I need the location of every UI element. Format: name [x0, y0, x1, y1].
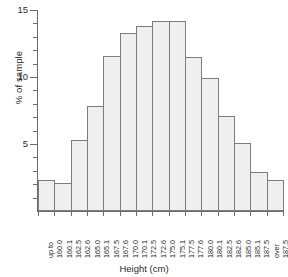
x-tick-label: 160.0 [55, 240, 64, 258]
x-tick-label: 187.5 [281, 240, 288, 258]
x-tick-mark [267, 212, 268, 216]
x-tick-label: 187.5 [262, 240, 271, 258]
x-axis-line [37, 211, 284, 212]
histogram-bar [120, 33, 137, 211]
y-tick-major [30, 144, 38, 145]
x-tick-mark [38, 212, 39, 216]
histogram-bar [136, 26, 153, 211]
histogram-bar [103, 56, 120, 211]
x-tick-mark [120, 212, 121, 216]
x-tick-label: 162.5 [74, 240, 83, 258]
x-tick-label: 182.5 [225, 240, 234, 258]
x-tick-mark [185, 212, 186, 216]
x-tick-label: 167.5 [112, 240, 121, 258]
x-tick-mark [87, 212, 88, 216]
histogram-bar [201, 78, 218, 211]
x-axis-label: Height (cm) [0, 263, 288, 274]
histogram-bar [218, 116, 235, 211]
histogram-bar [185, 57, 202, 211]
x-tick-mark [103, 212, 104, 216]
y-tick-label: 5 [0, 138, 28, 149]
y-tick-label: 10 [0, 71, 28, 82]
x-tick-label: 185.1 [253, 240, 262, 258]
histogram-bar [87, 106, 104, 211]
histogram-bar [267, 180, 284, 211]
y-tick-label: 15 [0, 4, 28, 15]
x-tick-label: 180.0 [206, 240, 215, 258]
x-tick-label: 180.1 [215, 240, 224, 258]
x-tick-mark [136, 212, 137, 216]
x-tick-mark [218, 212, 219, 216]
y-tick-major [30, 10, 38, 11]
x-tick-label: 177.5 [187, 240, 196, 258]
x-tick-label: 165.0 [93, 240, 102, 258]
x-tick-mark [283, 212, 284, 216]
x-tick-label: up to [46, 242, 55, 258]
x-tick-mark [169, 212, 170, 216]
x-tick-label: 167.6 [121, 240, 130, 258]
x-tick-label: 160.1 [65, 240, 74, 258]
x-tick-label: 175.1 [178, 240, 187, 258]
x-tick-label: over [272, 244, 281, 258]
x-tick-label: 165.1 [102, 240, 111, 258]
x-tick-mark [152, 212, 153, 216]
histogram-bar [38, 180, 55, 211]
histogram-bar [234, 143, 251, 211]
x-tick-label: 175.0 [168, 240, 177, 258]
histogram-bar [54, 183, 71, 211]
x-tick-mark [250, 212, 251, 216]
y-tick-major [30, 77, 38, 78]
x-tick-mark [234, 212, 235, 216]
x-tick-label: 162.6 [83, 240, 92, 258]
histogram-bar [152, 21, 169, 211]
x-tick-mark [54, 212, 55, 216]
histogram-chart: % of sample 51015 up to160.0160.1162.516… [0, 0, 288, 277]
x-tick-label: 185.0 [244, 240, 253, 258]
x-tick-label: 170.0 [131, 240, 140, 258]
histogram-bar [169, 21, 186, 211]
x-tick-label: 182.6 [234, 240, 243, 258]
x-tick-label: 170.1 [140, 240, 149, 258]
x-tick-mark [71, 212, 72, 216]
histogram-bar [71, 140, 88, 211]
histogram-bar [250, 172, 267, 211]
x-tick-label: 172.5 [149, 240, 158, 258]
x-tick-mark [201, 212, 202, 216]
x-tick-label: 172.6 [159, 240, 168, 258]
x-tick-label: 177.6 [196, 240, 205, 258]
plot-area [38, 10, 283, 211]
